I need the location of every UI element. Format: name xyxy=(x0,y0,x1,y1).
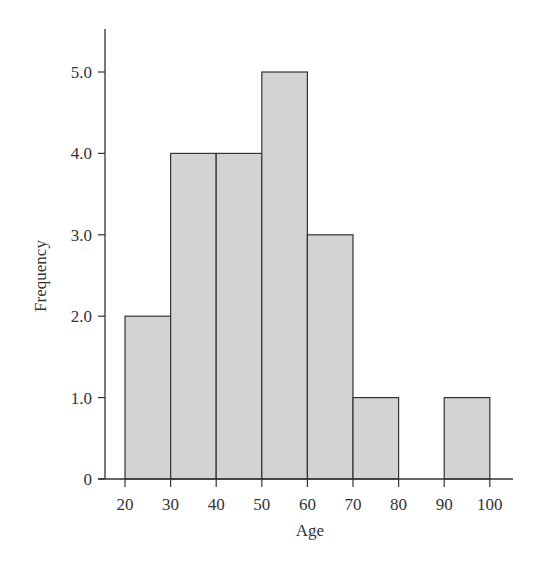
histogram-bar xyxy=(125,316,171,479)
x-tick-label: 50 xyxy=(253,495,270,514)
y-axis-label: Frequency xyxy=(31,240,50,312)
y-tick-label: 2.0 xyxy=(71,307,92,326)
x-tick-label: 100 xyxy=(477,495,503,514)
x-tick-label: 80 xyxy=(390,495,407,514)
x-tick-label: 30 xyxy=(162,495,179,514)
x-tick-label: 60 xyxy=(299,495,316,514)
histogram-bar xyxy=(171,153,217,479)
x-axis-ticks: 2030405060708090100 xyxy=(117,479,503,514)
y-tick-label: 4.0 xyxy=(71,144,92,163)
x-axis-label: Age xyxy=(296,521,324,540)
histogram-bar xyxy=(262,72,308,479)
y-tick-label: 0 xyxy=(84,470,93,489)
y-tick-label: 3.0 xyxy=(71,226,92,245)
histogram-bars xyxy=(125,72,490,479)
histogram-bar xyxy=(444,398,490,479)
histogram-bar xyxy=(307,235,353,479)
x-tick-label: 20 xyxy=(117,495,134,514)
y-tick-label: 5.0 xyxy=(71,63,92,82)
y-axis-ticks: 01.02.03.04.05.0 xyxy=(71,63,105,489)
y-tick-label: 1.0 xyxy=(71,389,92,408)
histogram-chart: 01.02.03.04.05.0 2030405060708090100 Age… xyxy=(0,0,544,574)
x-tick-label: 90 xyxy=(436,495,453,514)
histogram-bar xyxy=(216,153,262,479)
x-tick-label: 70 xyxy=(345,495,362,514)
x-tick-label: 40 xyxy=(208,495,225,514)
histogram-bar xyxy=(353,398,399,479)
